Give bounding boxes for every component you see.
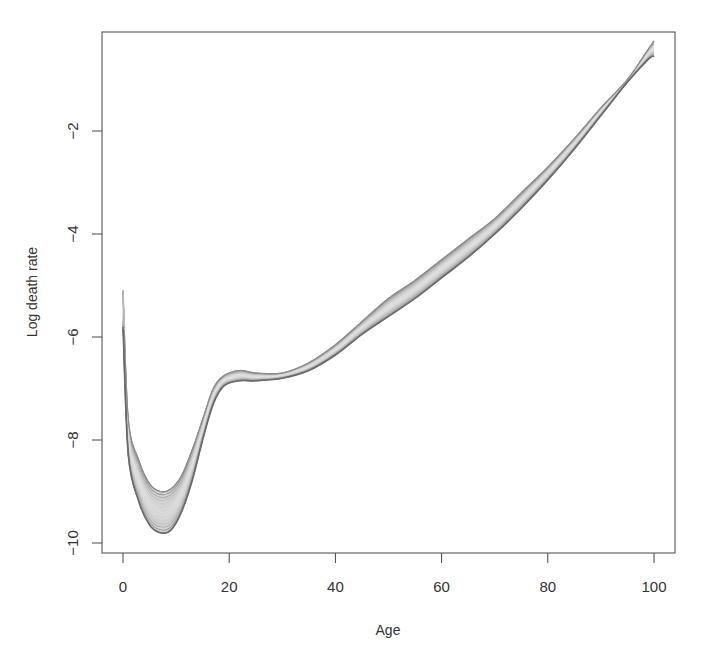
y-axis-title: Log death rate — [24, 247, 40, 338]
chart: 020406080100 −2−4−6−8−10 Age Log death r… — [0, 0, 701, 655]
band-lower-edge — [123, 56, 654, 533]
death-rate-curve — [123, 52, 654, 521]
x-tick-label: 60 — [433, 578, 450, 595]
y-tick-label: −10 — [64, 530, 81, 555]
x-tick-label: 40 — [327, 578, 344, 595]
death-rate-curve — [123, 55, 654, 530]
y-tick-label: −2 — [64, 122, 81, 139]
x-tick-label: 80 — [539, 578, 556, 595]
x-tick-label: 100 — [641, 578, 666, 595]
y-axis: −2−4−6−8−10 — [64, 122, 102, 555]
death-rate-curve — [123, 53, 654, 524]
x-tick-label: 0 — [119, 578, 127, 595]
death-rate-curve — [123, 54, 654, 527]
band-fill — [123, 41, 654, 533]
death-rate-curve — [123, 56, 654, 533]
death-rate-curve — [123, 51, 654, 519]
y-tick-label: −4 — [64, 225, 81, 242]
x-axis-title: Age — [376, 622, 401, 638]
x-axis: 020406080100 — [119, 553, 667, 595]
death-rate-band — [123, 41, 654, 533]
y-tick-label: −8 — [64, 431, 81, 448]
death-rate-curve — [123, 50, 654, 516]
x-tick-label: 20 — [221, 578, 238, 595]
y-tick-label: −6 — [64, 328, 81, 345]
